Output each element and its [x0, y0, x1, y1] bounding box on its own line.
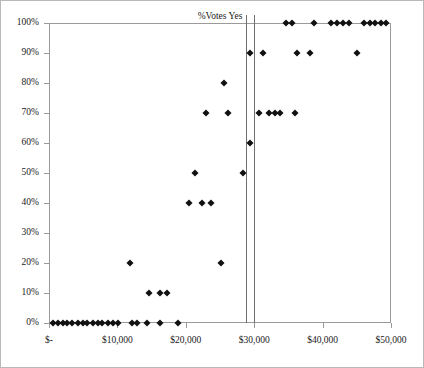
y-tick	[44, 293, 49, 294]
y-tick	[44, 83, 49, 84]
reference-line-vertical	[246, 15, 247, 323]
x-tick	[186, 323, 187, 328]
y-tick	[44, 233, 49, 234]
x-tick	[254, 323, 255, 328]
y-tick	[44, 143, 49, 144]
plot-frame	[49, 23, 391, 323]
y-tick	[44, 53, 49, 54]
y-tick-label: 50%	[22, 168, 39, 178]
y-tick	[44, 263, 49, 264]
y-tick-label: 70%	[22, 108, 39, 118]
y-tick	[44, 173, 49, 174]
reference-line-vertical	[254, 15, 255, 323]
y-tick-label: 0%	[26, 318, 39, 328]
y-tick-label: 80%	[22, 78, 39, 88]
x-tick-label: $50,000	[351, 336, 424, 346]
x-tick	[323, 323, 324, 328]
y-tick-label: 100%	[17, 18, 39, 28]
y-tick-label: 90%	[22, 48, 39, 58]
y-tick-label: 30%	[22, 228, 39, 238]
chart-title: %Votes Yes	[49, 11, 391, 21]
x-tick	[391, 323, 392, 328]
y-tick-label: 60%	[22, 138, 39, 148]
y-tick-label: 40%	[22, 198, 39, 208]
y-tick-label: 10%	[22, 288, 39, 298]
y-tick	[44, 203, 49, 204]
y-tick	[44, 113, 49, 114]
y-tick-label: 20%	[22, 258, 39, 268]
data-point	[174, 319, 181, 326]
plot-area	[49, 23, 391, 323]
y-tick	[44, 23, 49, 24]
chart-figure: %Votes Yes 0%10%20%30%40%50%60%70%80%90%…	[0, 0, 424, 368]
